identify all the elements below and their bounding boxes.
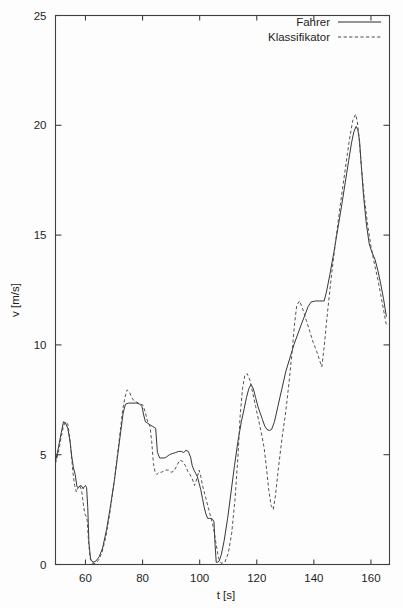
- x-tick-label: 100: [190, 572, 209, 584]
- plot-frame: [56, 16, 390, 565]
- chart-legend: Fahrer Klassifikator: [268, 16, 381, 43]
- y-axis-tick-labels: 0510152025: [34, 10, 47, 571]
- y-tick-label: 15: [34, 229, 47, 241]
- x-tick-label: 140: [304, 572, 323, 584]
- y-tick-label: 20: [34, 119, 47, 131]
- x-axis-title: t [s]: [217, 589, 236, 601]
- x-tick-label: 120: [247, 572, 266, 584]
- y-tick-label: 25: [34, 10, 47, 22]
- x-axis-ticks: [85, 16, 370, 565]
- y-axis-ticks: [56, 16, 390, 565]
- x-tick-label: 80: [136, 572, 149, 584]
- x-tick-label: 160: [361, 572, 380, 584]
- y-tick-label: 10: [34, 339, 47, 351]
- series-klassifikator: [56, 114, 387, 563]
- chart-container: 6080100120140160 0510152025 t [s] v [m/s…: [0, 0, 403, 608]
- x-axis-tick-labels: 6080100120140160: [79, 572, 380, 584]
- data-series-layer: [56, 114, 387, 563]
- series-fahrer: [56, 126, 387, 562]
- y-tick-label: 0: [40, 559, 46, 571]
- legend-label-fahrer: Fahrer: [296, 16, 330, 28]
- legend-label-klassifikator: Klassifikator: [268, 31, 330, 43]
- line-chart: 6080100120140160 0510152025 t [s] v [m/s…: [0, 0, 403, 608]
- y-tick-label: 5: [40, 449, 46, 461]
- x-tick-label: 60: [79, 572, 92, 584]
- y-axis-title: v [m/s]: [9, 283, 21, 317]
